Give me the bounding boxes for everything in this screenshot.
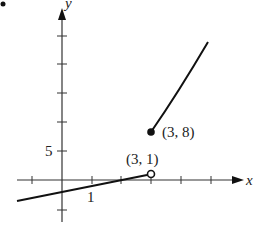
open-point-marker bbox=[148, 171, 155, 178]
line-left-piece bbox=[17, 175, 147, 201]
y-axis-label: y bbox=[63, 0, 72, 11]
bullet-mark bbox=[1, 2, 6, 7]
piecewise-graph: y x 1 5 (3, 1) (3, 8) bbox=[0, 0, 256, 226]
point-label-3-1: (3, 1) bbox=[126, 151, 159, 168]
x-tick-label-1: 1 bbox=[87, 189, 95, 205]
curve-right-piece bbox=[151, 42, 208, 132]
x-axis-arrow-icon bbox=[232, 176, 244, 184]
x-axis-label: x bbox=[245, 172, 253, 188]
point-label-3-8: (3, 8) bbox=[162, 124, 195, 141]
closed-point-marker bbox=[147, 128, 155, 136]
y-tick-label-5: 5 bbox=[45, 143, 53, 159]
